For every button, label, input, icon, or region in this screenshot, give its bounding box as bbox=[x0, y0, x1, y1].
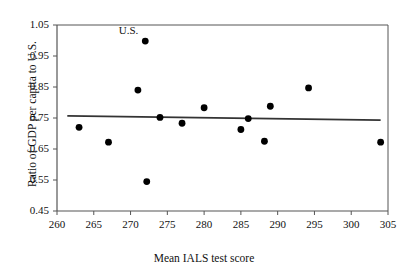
data-point bbox=[305, 85, 312, 92]
x-tick-label: 285 bbox=[221, 219, 261, 230]
trend-line bbox=[67, 116, 380, 120]
x-tick-label: 270 bbox=[111, 219, 151, 230]
data-point bbox=[237, 126, 244, 133]
x-axis-title: Mean IALS test score bbox=[0, 252, 408, 264]
us-annotation-label: U.S. bbox=[119, 24, 139, 36]
data-point bbox=[267, 103, 274, 110]
y-axis-title: Ratio of GDP per capita to U.S. bbox=[26, 14, 38, 214]
scatter-plot bbox=[0, 0, 408, 275]
chart-figure: 0.450.550.650.750.850.951.05 26026527027… bbox=[0, 0, 408, 275]
data-point bbox=[245, 115, 252, 122]
data-point bbox=[261, 138, 268, 145]
data-point bbox=[157, 114, 164, 121]
data-point bbox=[179, 120, 186, 127]
x-tick-label: 300 bbox=[331, 219, 371, 230]
x-tick-label: 305 bbox=[368, 219, 408, 230]
data-point bbox=[377, 139, 384, 146]
data-point bbox=[105, 139, 112, 146]
x-tick-label: 295 bbox=[294, 219, 334, 230]
data-points bbox=[76, 38, 384, 185]
x-tick-label: 260 bbox=[37, 219, 77, 230]
x-tick-label: 265 bbox=[74, 219, 114, 230]
data-point bbox=[76, 124, 83, 131]
data-point bbox=[201, 104, 208, 111]
data-point bbox=[142, 38, 149, 45]
x-tick-label: 275 bbox=[147, 219, 187, 230]
x-tick-label: 290 bbox=[258, 219, 298, 230]
data-point bbox=[143, 178, 150, 185]
x-tick-label: 280 bbox=[184, 219, 224, 230]
data-point bbox=[135, 87, 142, 94]
